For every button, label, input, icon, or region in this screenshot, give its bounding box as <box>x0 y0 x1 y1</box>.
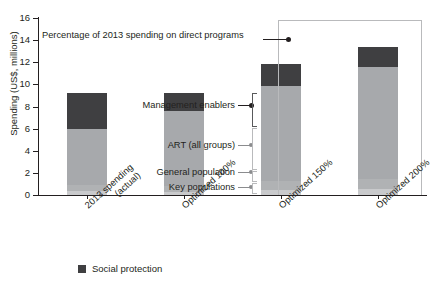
callout-percentage-leader <box>263 39 287 40</box>
y-tick-label-6: 6 <box>0 124 30 133</box>
y-tick-label-8: 8 <box>0 102 30 111</box>
bar-segment-art-all-groups- <box>67 129 107 185</box>
callout-percentage-dot <box>286 37 291 42</box>
key-populations-bracket <box>252 183 257 194</box>
bar-1 <box>67 93 107 195</box>
y-tick-label-12: 12 <box>0 57 30 66</box>
y-tick-label-10: 10 <box>0 79 30 88</box>
y-tick-label-2: 2 <box>0 168 30 177</box>
legend-swatch-social-protection <box>78 265 86 273</box>
y-tick-label-0: 0 <box>0 190 30 199</box>
y-tick-label-4: 4 <box>0 146 30 155</box>
y-tick-label-16: 16 <box>0 13 30 22</box>
callout-management-enablers: Management enablers <box>110 100 235 111</box>
y-tick-label-14: 14 <box>0 35 30 44</box>
callout-art-all-groups: ART (all groups) <box>120 140 235 151</box>
optimized-region-frame <box>278 20 422 195</box>
bar-segment-management-enablers <box>67 93 107 128</box>
legend: Social protection <box>78 263 162 274</box>
callout-percentage-note: Percentage of 2013 spending on direct pr… <box>42 30 277 41</box>
legend-label-social-protection: Social protection <box>92 263 162 274</box>
general-population-bracket <box>252 171 257 182</box>
art-bracket <box>252 128 257 170</box>
y-tick-0 <box>33 195 38 196</box>
management-enablers-bracket <box>252 93 257 127</box>
